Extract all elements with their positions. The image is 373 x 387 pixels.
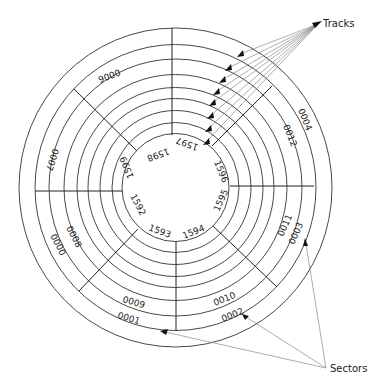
- label-0002: 0002: [220, 306, 245, 324]
- inner-track-labels: 1598 1597 1596 1595 1594 1593 1592 1599: [118, 135, 230, 241]
- label-1599: 1599: [118, 155, 136, 180]
- label-1598: 1598: [146, 146, 171, 163]
- label-1593: 1593: [147, 222, 172, 239]
- label-0008: 0008: [64, 224, 84, 249]
- sector-lines: [35, 28, 314, 331]
- sectors-leaders: [160, 238, 326, 368]
- label-0001: 0001: [116, 310, 141, 326]
- label-0012: 0012: [281, 123, 299, 148]
- disk-diagram: Tracks Sectors 0006 0007 0000 0001 0002 …: [0, 0, 373, 387]
- sectors-callout: Sectors: [330, 363, 367, 374]
- second-ring-labels: 0008 0009 0010 0011 0012: [64, 123, 299, 310]
- label-0007: 0007: [44, 147, 61, 172]
- tracks-callout: Tracks: [322, 18, 354, 29]
- label-0009: 0009: [121, 294, 146, 310]
- label-1592: 1592: [128, 192, 148, 217]
- label-1596: 1596: [212, 159, 230, 184]
- label-0006: 0006: [97, 67, 122, 84]
